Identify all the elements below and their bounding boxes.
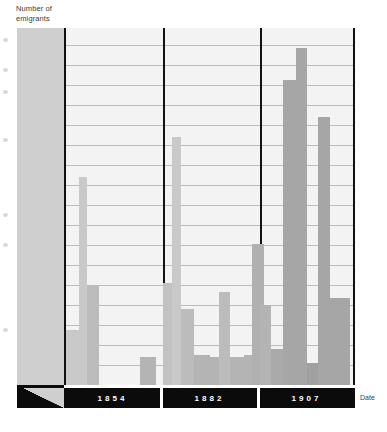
x-axis-group-divider: [160, 388, 163, 408]
bar: [330, 298, 350, 385]
scan-artifact: [3, 328, 8, 332]
scan-artifact: [3, 243, 8, 247]
bar: [283, 80, 296, 385]
page-scan-edge-artifacts: [0, 28, 14, 388]
bar: [271, 349, 283, 385]
x-axis-title: Date: [360, 394, 375, 401]
scan-artifact: [3, 213, 8, 217]
x-axis-group-label: 1854: [64, 388, 161, 408]
scan-artifact: [3, 138, 8, 142]
bar: [244, 355, 252, 385]
bar: [318, 117, 330, 385]
bar-series: [66, 28, 353, 385]
x-axis-group-divider: [257, 388, 260, 408]
plot-area: [64, 28, 355, 385]
x-axis-band: 185418821907: [64, 388, 355, 408]
y-axis-title: Number of emigrants: [16, 4, 76, 23]
bar: [172, 137, 181, 385]
bar: [194, 355, 210, 385]
corner-triangle-decoration: [17, 385, 64, 408]
scan-artifact: [3, 68, 8, 72]
bar: [79, 177, 87, 385]
x-axis-group-label: 1882: [161, 388, 258, 408]
bar: [210, 357, 219, 385]
y-axis-label-strip: [17, 28, 64, 385]
scan-artifact: [3, 38, 8, 42]
scan-artifact: [3, 90, 8, 94]
emigration-bar-chart: Number of emigrants 340,000320,000300,00…: [0, 0, 387, 432]
bar: [163, 283, 172, 385]
bar: [181, 309, 194, 385]
bar: [87, 285, 99, 385]
bar: [260, 305, 271, 385]
bar: [296, 48, 307, 385]
bar: [66, 330, 79, 385]
bar: [219, 292, 230, 385]
bar: [140, 357, 156, 385]
bar: [230, 357, 244, 385]
corner-baseline-bar: [17, 385, 64, 388]
x-axis-group-label: 1907: [258, 388, 355, 408]
bar: [307, 363, 318, 385]
